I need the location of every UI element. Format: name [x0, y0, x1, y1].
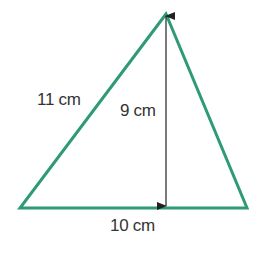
base-label: 10 cm [110, 216, 155, 236]
left-side-label: 11 cm [37, 90, 81, 110]
triangle-diagram: 11 cm 9 cm 10 cm [0, 0, 269, 255]
height-label: 9 cm [120, 101, 156, 121]
